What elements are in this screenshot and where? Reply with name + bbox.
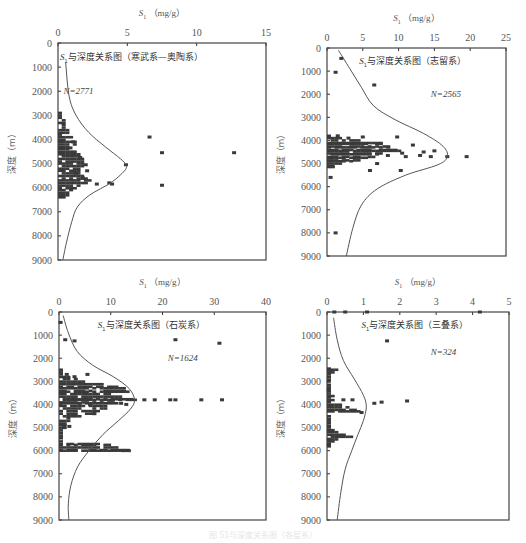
data-point [400, 152, 404, 155]
y-tick-label: 6000 [301, 445, 321, 456]
data-point [334, 231, 338, 234]
data-point [232, 151, 236, 154]
data-point [160, 184, 164, 187]
y-tick-label: 4000 [33, 399, 53, 410]
figure-caption: 图 S1与深度关系图（各层系） [0, 529, 526, 540]
data-point [404, 155, 408, 158]
data-point [429, 155, 433, 158]
data-point [71, 140, 75, 143]
data-point [92, 412, 96, 415]
data-point [73, 339, 77, 342]
x-tick-label: 40 [261, 296, 271, 307]
data-point [199, 398, 203, 401]
y-tick-label: 7000 [33, 468, 53, 479]
data-point [327, 380, 331, 383]
data-point [327, 443, 331, 446]
y-tick-label: 9000 [301, 251, 321, 262]
data-point [85, 373, 89, 376]
data-point [153, 398, 157, 401]
data-point [63, 338, 67, 341]
y-tick-label: 9000 [301, 515, 321, 526]
chart-title: S1与深度关系图（志留系） [359, 55, 466, 68]
data-point [67, 425, 71, 428]
x-tick-label: 5 [360, 32, 365, 43]
y-tick-label: 5000 [32, 158, 52, 169]
y-tick-label: 2000 [301, 353, 321, 364]
y-tick-label: 4000 [32, 134, 52, 145]
y-tick-label: 3000 [32, 110, 52, 121]
data-point [375, 162, 379, 165]
data-point [95, 183, 99, 186]
data-point [332, 311, 336, 314]
data-point [88, 403, 92, 406]
y-tick-label: 0 [316, 307, 321, 318]
x-tick-label: 10 [394, 32, 404, 43]
y-tick-label: 3000 [301, 376, 321, 387]
data-point [350, 398, 354, 401]
y-tick-label: 8000 [301, 491, 321, 502]
y-tick-label: 3000 [33, 376, 53, 387]
x-tick-label: 0 [325, 32, 330, 43]
data-point [465, 155, 469, 158]
x-tick-label: 0 [56, 27, 61, 38]
y-tick-label: 3000 [301, 112, 321, 123]
y-tick-label: 1000 [301, 66, 321, 77]
x-axis-title: S1 （mg/g） [139, 277, 185, 289]
data-point [385, 339, 389, 342]
data-point [73, 375, 77, 378]
x-tick-label: 30 [209, 296, 219, 307]
data-point [399, 169, 403, 172]
x-axis-title: S1 （mg/g） [395, 277, 441, 289]
data-point [386, 154, 390, 157]
chart-title: S1与深度关系图（三叠系） [362, 319, 469, 332]
x-tick-label: 10 [192, 27, 202, 38]
chart-triassic: S1 （mg/g）0123450100020003000400050006000… [275, 277, 512, 526]
data-point [336, 134, 340, 137]
chart-title: S1与深度关系图（寒武系—奥陶系） [60, 51, 203, 64]
data-point [78, 402, 82, 405]
y-tick-label: 1000 [301, 330, 321, 341]
data-point [78, 382, 82, 385]
data-point [365, 311, 369, 314]
plot-frame [59, 312, 266, 520]
data-point [361, 135, 365, 138]
y-tick-label: 7000 [301, 468, 321, 479]
x-axis-title: S1 （mg/g） [139, 8, 185, 20]
data-point [124, 403, 128, 406]
sample-count-label: N=2771 [63, 86, 94, 96]
data-point [327, 438, 331, 441]
data-point [85, 169, 89, 172]
data-point [329, 176, 333, 179]
data-point [59, 321, 63, 324]
x-axis-title: S1 （mg/g） [393, 13, 439, 25]
data-point [372, 83, 376, 86]
x-tick-label: 0 [57, 296, 62, 307]
y-tick-label: 2000 [301, 89, 321, 100]
envelope-curve [63, 315, 134, 520]
data-point [62, 425, 66, 428]
y-tick-label: 5000 [33, 422, 53, 433]
sample-count-label: N=1624 [167, 353, 199, 363]
data-point [127, 449, 131, 452]
data-point [168, 398, 172, 401]
x-tick-label: 10 [106, 296, 116, 307]
data-point [81, 177, 85, 180]
x-tick-label: 5 [507, 296, 512, 307]
y-tick-label: 6000 [32, 182, 52, 193]
data-point [160, 151, 164, 154]
chart-title: S1与深度关系图（石炭系） [98, 319, 205, 332]
y-tick-label: 1000 [33, 330, 53, 341]
y-tick-label: 0 [48, 307, 53, 318]
data-point [346, 137, 350, 140]
y-tick-label: 4000 [301, 399, 321, 410]
data-point [65, 373, 69, 376]
x-tick-label: 15 [429, 32, 439, 43]
data-point [84, 163, 88, 166]
plot-frame [327, 312, 509, 520]
y-tick-label: 0 [316, 43, 321, 54]
data-point [68, 146, 72, 149]
data-point [343, 311, 347, 314]
data-point [405, 399, 409, 402]
y-axis-label: 深度（m） [6, 129, 17, 174]
x-tick-label: 2 [397, 296, 402, 307]
